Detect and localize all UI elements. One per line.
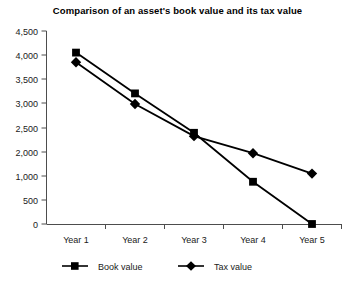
legend-entry-book-value[interactable]: Book value <box>62 262 143 272</box>
y-tick-label: 2,000 <box>15 148 38 158</box>
x-axis-tick-labels: Year 1 Year 2 Year 3 Year 4 Year 5 <box>63 235 325 245</box>
chart-legend: Book value Tax value <box>62 261 252 271</box>
x-tick-label: Year 1 <box>63 235 89 245</box>
data-point-marker <box>131 90 139 98</box>
data-point-marker <box>308 220 316 228</box>
legend-entry-tax-value[interactable]: Tax value <box>178 261 252 271</box>
legend-label-tax-value: Tax value <box>214 262 252 272</box>
x-tick-label: Year 5 <box>299 235 325 245</box>
y-tick-label: 2,500 <box>15 124 38 134</box>
x-tick-label: Year 2 <box>122 235 148 245</box>
y-tick-label: 1,000 <box>15 172 38 182</box>
y-tick-label: 4,500 <box>15 27 38 37</box>
x-tick-label: Year 3 <box>181 235 207 245</box>
series-line <box>76 62 312 173</box>
y-axis-tick-labels: 4,500 4,000 3,500 3,000 2,500 2,000 1,00… <box>15 27 38 230</box>
data-point-marker <box>248 148 258 158</box>
chart-figure: Comparison of an asset's book value and … <box>0 0 355 286</box>
line-chart-plot: 4,500 4,000 3,500 3,000 2,500 2,000 1,00… <box>0 0 355 286</box>
legend-label-book-value: Book value <box>98 262 143 272</box>
y-axis-ticks <box>42 31 47 224</box>
diamond-marker-icon <box>186 261 196 271</box>
y-tick-label: 0 <box>33 220 38 230</box>
y-tick-label: 4,000 <box>15 51 38 61</box>
square-marker-icon <box>71 262 79 270</box>
data-point-marker <box>307 168 317 178</box>
y-tick-label: 3,500 <box>15 75 38 85</box>
data-series-layer <box>71 49 317 228</box>
data-point-marker <box>249 178 257 186</box>
data-point-marker <box>72 49 80 57</box>
x-tick-label: Year 4 <box>240 235 266 245</box>
y-tick-label: 3,000 <box>15 99 38 109</box>
y-tick-label: 500 <box>23 196 38 206</box>
